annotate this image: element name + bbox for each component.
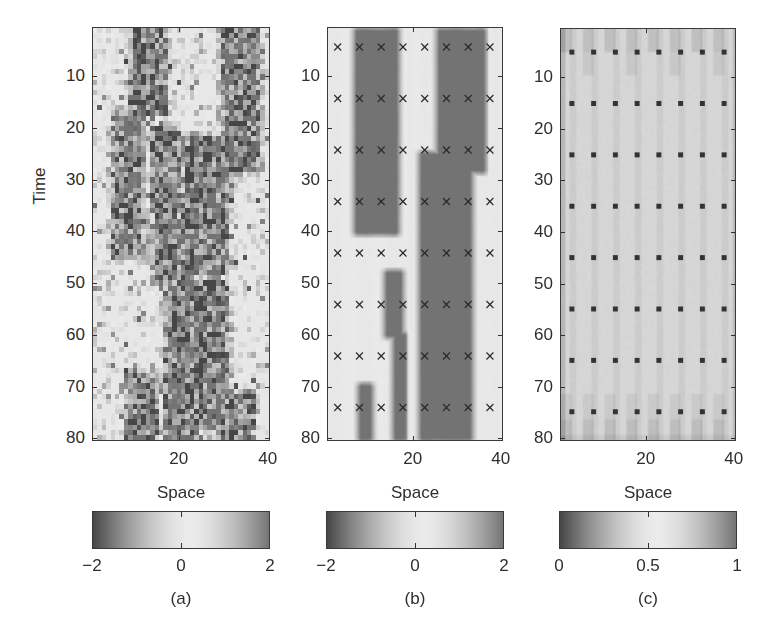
cross-marker-icon xyxy=(399,147,406,154)
cross-marker-icon xyxy=(486,301,493,308)
cross-marker-icon xyxy=(443,404,450,411)
colorbar-tick-label: −2 xyxy=(67,557,117,574)
colorbar-tick-label: 0.5 xyxy=(623,557,673,574)
x-axis-label-c: Space xyxy=(598,484,698,502)
cross-marker-icon xyxy=(443,95,450,102)
y-tick-label: 50 xyxy=(523,275,553,292)
cross-marker-icon xyxy=(356,198,363,205)
square-marker-icon xyxy=(678,50,683,55)
y-tick-mark xyxy=(265,438,270,439)
y-tick-label: 40 xyxy=(290,222,320,239)
square-marker-icon xyxy=(569,152,574,157)
cross-marker-icon xyxy=(421,95,428,102)
y-tick-label: 20 xyxy=(55,119,85,136)
cross-marker-icon xyxy=(334,95,341,102)
y-tick-label: 70 xyxy=(290,378,320,395)
cross-marker-icon xyxy=(421,404,428,411)
square-marker-icon xyxy=(635,152,640,157)
square-marker-icon xyxy=(656,50,661,55)
x-tick-mark xyxy=(179,27,180,32)
square-marker-icon xyxy=(569,358,574,363)
y-tick-mark xyxy=(265,128,270,129)
square-marker-icon xyxy=(678,358,683,363)
square-marker-icon xyxy=(722,409,727,414)
y-tick-mark xyxy=(92,180,97,181)
square-marker-icon xyxy=(678,101,683,106)
y-tick-mark xyxy=(560,129,565,130)
colorbar-tick xyxy=(415,512,416,517)
x-axis-label-a: Space xyxy=(131,484,231,502)
square-marker-icon xyxy=(678,255,683,260)
y-tick-mark xyxy=(92,283,97,284)
y-tick-label: 30 xyxy=(523,171,553,188)
square-marker-icon xyxy=(613,204,618,209)
cross-marker-icon xyxy=(334,44,341,51)
cross-marker-icon xyxy=(443,250,450,257)
y-tick-label: 20 xyxy=(523,120,553,137)
square-marker-icon xyxy=(700,307,705,312)
square-marker-icon xyxy=(700,152,705,157)
y-tick-mark xyxy=(731,77,736,78)
y-tick-label: 10 xyxy=(523,68,553,85)
panel-caption-c: (c) xyxy=(618,590,678,608)
cross-marker-icon xyxy=(465,404,472,411)
y-tick-label: 80 xyxy=(55,429,85,446)
square-marker-icon xyxy=(591,255,596,260)
square-marker-icon xyxy=(613,358,618,363)
square-marker-icon xyxy=(569,101,574,106)
square-marker-icon xyxy=(722,204,727,209)
square-marker-icon xyxy=(569,50,574,55)
y-tick-mark xyxy=(327,128,332,129)
heatmap-c xyxy=(560,28,736,441)
y-tick-label: 50 xyxy=(290,274,320,291)
square-marker-icon xyxy=(635,255,640,260)
x-tick-mark xyxy=(413,436,414,441)
cross-marker-icon xyxy=(378,147,385,154)
square-marker-icon xyxy=(635,204,640,209)
colorbar-tick xyxy=(181,543,182,548)
y-tick-mark xyxy=(731,180,736,181)
colorbar-tick-label: 1 xyxy=(712,557,762,574)
square-marker-icon xyxy=(722,358,727,363)
cross-marker-icon xyxy=(399,198,406,205)
cross-marker-icon xyxy=(486,250,493,257)
colorbar-b xyxy=(326,511,504,549)
y-tick-mark xyxy=(92,335,97,336)
cross-marker-icon xyxy=(399,95,406,102)
square-marker-icon xyxy=(591,50,596,55)
cross-marker-icon xyxy=(443,301,450,308)
y-tick-mark xyxy=(560,232,565,233)
x-tick-mark xyxy=(646,28,647,33)
square-marker-icon xyxy=(700,204,705,209)
x-tick-label: 20 xyxy=(393,450,433,467)
y-tick-mark xyxy=(731,387,736,388)
y-tick-mark xyxy=(265,335,270,336)
y-tick-mark xyxy=(92,76,97,77)
cross-marker-icon xyxy=(399,301,406,308)
square-marker-icon xyxy=(613,255,618,260)
cross-marker-icon xyxy=(443,44,450,51)
square-marker-icon xyxy=(700,409,705,414)
y-tick-label: 10 xyxy=(290,67,320,84)
cross-marker-icon xyxy=(465,353,472,360)
y-tick-mark xyxy=(327,76,332,77)
square-marker-icon xyxy=(700,50,705,55)
cross-marker-icon xyxy=(421,44,428,51)
y-tick-label: 20 xyxy=(290,119,320,136)
cross-marker-icon xyxy=(465,147,472,154)
square-marker-icon xyxy=(635,358,640,363)
y-tick-label: 40 xyxy=(523,223,553,240)
cross-marker-icon xyxy=(421,301,428,308)
y-tick-mark xyxy=(265,76,270,77)
y-tick-mark xyxy=(560,77,565,78)
y-tick-label: 60 xyxy=(523,326,553,343)
cross-marker-icon xyxy=(334,147,341,154)
cross-marker-icon xyxy=(334,404,341,411)
cross-marker-icon xyxy=(486,198,493,205)
y-tick-label: 70 xyxy=(55,378,85,395)
cross-marker-icon xyxy=(421,198,428,205)
cross-marker-icon xyxy=(443,147,450,154)
y-tick-mark xyxy=(731,129,736,130)
x-tick-label: 40 xyxy=(714,450,754,467)
cross-marker-icon xyxy=(486,44,493,51)
